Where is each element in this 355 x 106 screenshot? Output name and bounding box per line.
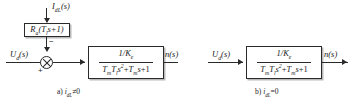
plant-block-a: 1/Ke1/Ke TmTls2+Tms+1TmTls2+Tms+1	[88, 46, 164, 79]
transfer-function-a: 1/Ke1/Ke TmTls2+Tms+1TmTls2+Tms+1	[99, 49, 153, 76]
disturbance-gain-label: Ra(Tls+1)Ra(Tls+1)	[30, 24, 63, 36]
summing-sign-positive: +	[38, 67, 43, 75]
disturbance-gain-block: Ra(Tls+1)Ra(Tls+1)	[24, 23, 70, 37]
tf-denominator-b: TmTls2+Tms+1TmTls2+Tms+1	[257, 63, 311, 76]
input-label-b: Ud(s)Ud(s)	[212, 50, 230, 61]
panel-b: Ud(s)Ud(s) 1/Ke1/Ke TmTls2+Tms+1TmTls2+T…	[178, 0, 355, 106]
input-line-a	[6, 62, 41, 63]
output-line-a	[164, 62, 178, 63]
output-label-b: n(s)n(s)	[324, 50, 337, 59]
output-arrow-b	[342, 59, 347, 65]
caption-b: b) idL=0b) idL=0	[255, 88, 279, 98]
disturbance-arrow-bottom	[44, 47, 50, 52]
tf-denominator-a: TmTls2+Tms+1TmTls2+Tms+1	[99, 63, 153, 76]
tf-numerator-a: 1/Ke1/Ke	[116, 49, 137, 61]
plant-input-arrow-b	[238, 59, 243, 65]
output-label-a: n(s)n(s)	[165, 50, 178, 59]
plant-block-b: 1/Ke1/Ke TmTls2+Tms+1TmTls2+Tms+1	[246, 46, 322, 79]
plant-input-arrow-a	[80, 59, 85, 65]
input-label-a: Ud(s)Ud(s)	[10, 50, 28, 61]
disturbance-input-label: IdL(s)IdL(s)	[52, 2, 70, 13]
tf-numerator-b: 1/Ke1/Ke	[274, 49, 295, 61]
transfer-function-b: 1/Ke1/Ke TmTls2+Tms+1TmTls2+Tms+1	[257, 49, 311, 76]
summing-sign-negative: −	[49, 38, 54, 46]
caption-a: a) idL≠0a) idL≠0	[57, 88, 80, 98]
panel-a: IdL(s)IdL(s) Ra(Tls+1)Ra(Tls+1) − Ud(s)U…	[0, 0, 178, 106]
figure-canvas: IdL(s)IdL(s) Ra(Tls+1)Ra(Tls+1) − Ud(s)U…	[0, 0, 355, 106]
